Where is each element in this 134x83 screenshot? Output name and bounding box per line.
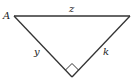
side-label-z: z bbox=[68, 3, 75, 14]
side-label-y: y bbox=[33, 46, 40, 57]
triangle-diagram: A z y k bbox=[0, 0, 134, 83]
side-k-right-leg bbox=[72, 16, 130, 77]
vertex-label-a: A bbox=[2, 10, 10, 21]
side-y-left-leg bbox=[14, 16, 72, 77]
side-label-k: k bbox=[103, 46, 109, 57]
right-angle-marker-icon bbox=[66, 64, 79, 71]
